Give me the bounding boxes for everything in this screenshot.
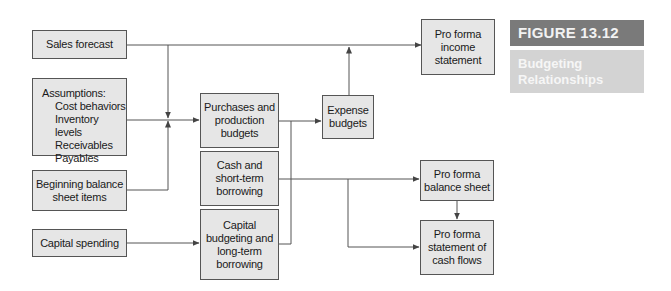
- income-statement-box: Pro forma income statement: [421, 19, 495, 75]
- purchases-production-box: Purchases and production budgets: [200, 93, 279, 148]
- income-statement-label: Pro forma income statement: [435, 28, 482, 67]
- expense-budgets-box: Expense budgets: [322, 95, 374, 139]
- beginning-balance-label: Beginning balance sheet items: [36, 178, 123, 204]
- assumption-item: Payables: [42, 152, 126, 165]
- assumption-item: Cost behaviors: [42, 100, 126, 113]
- capital-spending-box: Capital spending: [32, 229, 127, 257]
- assumption-item: Inventory levels: [42, 113, 126, 139]
- figure-title: Budgeting Relationships: [510, 50, 644, 93]
- purchases-production-label: Purchases and production budgets: [204, 101, 275, 140]
- balance-sheet-label: Pro forma balance sheet: [424, 168, 490, 194]
- beginning-balance-box: Beginning balance sheet items: [32, 170, 127, 211]
- assumptions-box: Assumptions: Cost behaviors Inventory le…: [32, 78, 127, 156]
- sales-forecast-box: Sales forecast: [32, 30, 127, 59]
- capital-budgeting-label: Capital budgeting and long-term borrowin…: [206, 219, 273, 271]
- cash-flows-label: Pro forma statement of cash flows: [428, 228, 486, 267]
- cash-borrowing-label: Cash and short-term borrowing: [215, 159, 263, 198]
- figure-number: FIGURE 13.12: [510, 20, 644, 46]
- capital-budgeting-box: Capital budgeting and long-term borrowin…: [200, 209, 279, 280]
- assumption-item: Receivables: [42, 139, 126, 152]
- sales-forecast-label: Sales forecast: [46, 38, 113, 51]
- assumptions-heading: Assumptions:: [42, 87, 126, 100]
- cash-borrowing-box: Cash and short-term borrowing: [200, 151, 279, 206]
- balance-sheet-box: Pro forma balance sheet: [420, 160, 494, 201]
- capital-spending-label: Capital spending: [40, 237, 119, 250]
- cash-flows-box: Pro forma statement of cash flows: [420, 220, 494, 275]
- expense-budgets-label: Expense budgets: [327, 104, 368, 130]
